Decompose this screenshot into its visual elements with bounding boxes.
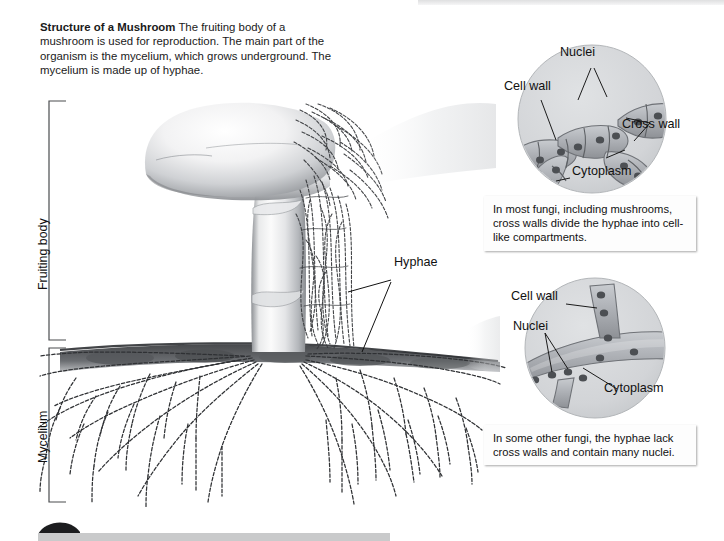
- label-nuclei-lower: Nuclei: [513, 320, 548, 333]
- caption-septate: In most fungi, including mushrooms, cros…: [484, 196, 696, 251]
- figure-title: Structure of a Mushroom: [40, 21, 175, 33]
- mycelium-hyphae: [38, 352, 506, 508]
- page-top-rule: [418, 0, 724, 5]
- bracket-label-mycelium: Mycelium: [36, 411, 50, 463]
- label-cytoplasm-lower: Cytoplasm: [604, 382, 664, 395]
- fruiting-body-bracket: [49, 101, 66, 340]
- page-footer-tab: [38, 522, 390, 541]
- callout-cone-upper: [356, 103, 496, 186]
- mushroom-cap: [145, 103, 335, 200]
- hyphae-leader-lines: [348, 280, 391, 352]
- callout-cone-lower: [466, 316, 500, 372]
- caption-coenocytic: In some other fungi, the hyphae lack cro…: [484, 425, 696, 465]
- figure-page: Structure of a Mushroom The fruiting bod…: [0, 0, 724, 541]
- label-cross-wall-upper: Cross wall: [622, 118, 680, 131]
- label-hyphae: Hyphae: [394, 256, 437, 269]
- label-cell-wall-upper: Cell wall: [504, 80, 551, 93]
- label-cytoplasm-upper: Cytoplasm: [572, 165, 632, 178]
- label-cell-wall-lower: Cell wall: [511, 290, 558, 303]
- label-nuclei-upper: Nuclei: [560, 46, 595, 59]
- figure-intro: Structure of a Mushroom The fruiting bod…: [40, 20, 340, 78]
- bracket-label-fruiting-body: Fruiting body: [36, 218, 50, 290]
